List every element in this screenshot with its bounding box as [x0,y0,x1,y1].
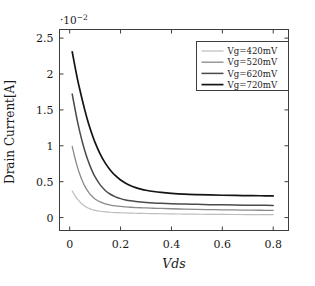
curve-vg-520mv [72,147,273,211]
chart-figure: 00.20.40.60.8 00.511.522.5 ·10−2 Vds Dra… [0,0,315,286]
x-tick-label-4: 0.8 [264,238,282,251]
y-tick-label-5: 2.5 [36,32,54,45]
x-axis-tick-labels: 00.20.40.60.8 [66,238,282,251]
curve-vg-620mv [72,94,273,205]
x-tick-label-2: 0.4 [163,238,181,251]
y-tick-label-4: 2 [47,68,54,81]
legend-label-0: Vg=420mV [227,46,278,56]
legend-label-2: Vg=620mV [227,69,278,79]
x-tick-label-1: 0.2 [112,238,130,251]
legend-label-3: Vg=720mV [227,80,278,90]
x-tick-label-0: 0 [66,238,73,251]
chart-canvas: 00.20.40.60.8 00.511.522.5 ·10−2 Vds Dra… [0,0,315,286]
y-axis-title: Drain Current[A] [3,80,17,184]
y-tick-label-3: 1.5 [36,104,54,117]
x-tick-label-3: 0.6 [214,238,232,251]
y-axis-tick-labels: 00.511.522.5 [36,32,54,224]
legend-label-1: Vg=520mV [227,57,278,67]
y-tick-label-2: 1 [47,140,54,153]
x-axis-title: Vds [162,256,185,271]
chart-legend: Vg=420mVVg=520mVVg=620mVVg=720mV [197,42,289,91]
y-tick-label-0: 0 [47,212,54,225]
y-tick-label-1: 0.5 [36,176,54,189]
y-axis-exponent-label: ·10−2 [60,13,88,26]
